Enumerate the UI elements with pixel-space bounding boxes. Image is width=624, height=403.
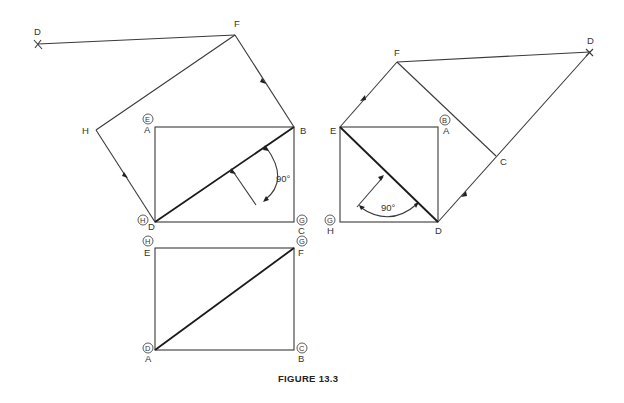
label-f-right: F xyxy=(394,47,400,58)
label-d: D xyxy=(148,221,155,232)
label-b: B xyxy=(300,125,306,136)
label-c: C xyxy=(298,225,305,236)
arc-arrowhead-right xyxy=(414,202,419,208)
line-f-h xyxy=(96,35,235,130)
left-diagonal-db xyxy=(155,127,294,222)
label-f-bottom: F xyxy=(298,247,304,258)
figure-canvas: 90° F D H B A E D H G C H E G F D A C B xyxy=(0,0,624,403)
line-f-dcross xyxy=(397,52,590,62)
line-b-f xyxy=(235,35,294,127)
bottom-view: H E G F D A C B xyxy=(143,236,307,364)
label-d-circled-bottom: D xyxy=(145,344,151,353)
angle-label-right: 90° xyxy=(381,202,396,213)
label-d-cross: D xyxy=(34,26,41,37)
right-view: 90° F D C E B A D G H xyxy=(325,35,594,236)
figure-caption: FIGURE 13.3 xyxy=(278,373,338,384)
label-d-right: D xyxy=(435,225,442,236)
label-b-bottom: B xyxy=(298,353,304,364)
label-a-bottom: A xyxy=(145,353,152,364)
angle-label-left: 90° xyxy=(276,173,291,184)
perpendicular-arrowhead-right xyxy=(378,175,384,181)
label-e-circled: E xyxy=(145,115,150,124)
bottom-diagonal-af xyxy=(155,248,294,350)
label-c-circled-bottom: C xyxy=(299,344,305,353)
label-d-cross-right: D xyxy=(587,35,594,46)
line-e-f xyxy=(340,62,397,127)
perpendicular-arrow xyxy=(232,170,256,205)
label-h-circled: H xyxy=(140,216,145,225)
arrow-mark-dc xyxy=(461,191,467,197)
label-g-circled: G xyxy=(299,216,305,225)
label-g-circled-bottom: G xyxy=(299,237,305,246)
line-d-f xyxy=(38,35,235,44)
label-g-circled-right: G xyxy=(327,216,333,225)
line-d-dcross xyxy=(438,52,590,222)
label-a-right: A xyxy=(443,125,450,136)
left-view: 90° F D H B A E D H G C xyxy=(34,18,307,236)
label-h-circled-bottom: H xyxy=(145,237,150,246)
label-h-right: H xyxy=(327,225,334,236)
label-b-circled-right: B xyxy=(442,116,447,125)
label-h: H xyxy=(82,125,89,136)
label-e-bottom: E xyxy=(144,247,150,258)
label-f: F xyxy=(234,18,240,29)
line-f-c xyxy=(397,62,496,156)
label-c-right: C xyxy=(500,156,507,167)
label-e-right: E xyxy=(330,125,336,136)
label-a: A xyxy=(144,124,151,135)
arrow-mark-ef xyxy=(360,95,366,101)
perpendicular-arrow-right xyxy=(357,177,383,207)
